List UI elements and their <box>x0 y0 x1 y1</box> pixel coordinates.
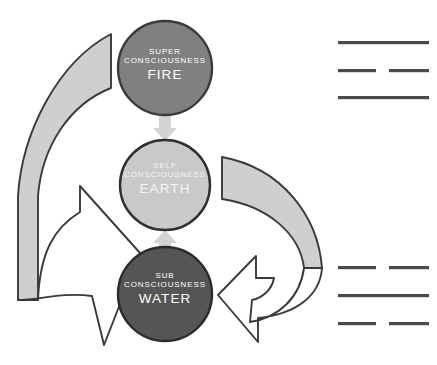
node-super-consciousness <box>118 21 212 115</box>
consciousness-diagram: SUPER CONSCIOUSNESS FIRE SELF CONSCIOUSN… <box>0 0 437 365</box>
upper-redacted-block <box>338 41 429 99</box>
redacted-line <box>338 294 429 297</box>
redacted-line <box>338 322 376 325</box>
right-sweep-arrow <box>218 157 322 342</box>
redacted-line <box>338 266 376 269</box>
redacted-line <box>389 69 429 72</box>
node-self-consciousness <box>120 140 210 230</box>
lower-redacted-block <box>338 266 429 325</box>
redacted-line <box>338 41 429 44</box>
node-sub-consciousness <box>118 247 212 341</box>
arrow-down-icon <box>153 116 177 141</box>
right-sweep-arrow-band <box>222 157 322 268</box>
redacted-line <box>338 69 376 72</box>
diagram-canvas <box>0 0 437 365</box>
fire-to-earth-connector <box>153 116 177 141</box>
redacted-line <box>338 96 429 99</box>
right-sweep-arrow-head <box>218 256 322 342</box>
redacted-line <box>389 322 429 325</box>
redacted-line <box>389 266 429 269</box>
